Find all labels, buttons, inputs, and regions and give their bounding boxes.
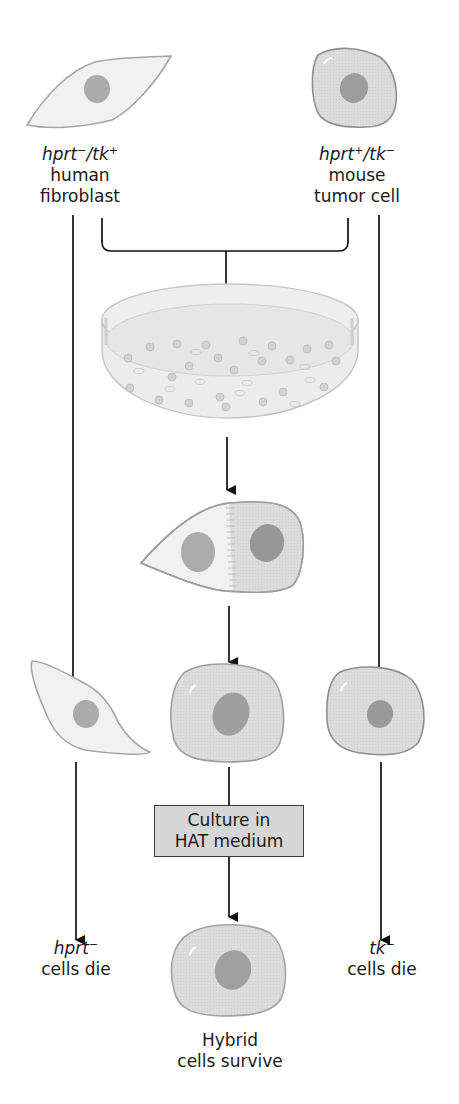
human-nucleus — [181, 532, 215, 572]
nucleus — [84, 75, 110, 103]
hat-selection-diagram: hprt−/tk+ human fibroblast hprt+/tk− mou… — [0, 0, 459, 1104]
hybrid-cells-survive-label: Hybrid cells survive — [150, 1030, 310, 1072]
culture-hat-medium-box: Culture in HAT medium — [154, 805, 304, 857]
hybrid-cell — [171, 664, 284, 762]
mouse-species: mouse — [287, 165, 427, 186]
fused-heterokaryon-cell — [141, 502, 303, 593]
mouse-cell-type: tumor cell — [287, 186, 427, 207]
tk-cells-die-label: tk− cells die — [322, 938, 442, 980]
hprt-cells-die-label: hprt− cells die — [16, 938, 136, 980]
unfused-human-fibroblast — [31, 661, 150, 754]
mouse-tumor-cell — [312, 48, 396, 127]
human-fibroblast-cell — [27, 56, 171, 127]
human-cell-type: fibroblast — [10, 186, 150, 207]
human-fibroblast-label: hprt−/tk+ human fibroblast — [10, 144, 150, 207]
mouse-tumor-label: hprt+/tk− mouse tumor cell — [287, 144, 427, 207]
human-species: human — [10, 165, 150, 186]
nucleus — [73, 700, 99, 728]
human-genotype: hprt−/tk+ — [10, 144, 150, 165]
mouse-genotype: hprt+/tk− — [287, 144, 427, 165]
unfused-mouse-tumor-cell — [327, 667, 424, 755]
surviving-hybrid-cell — [171, 925, 285, 1016]
merge-bracket — [102, 218, 348, 251]
petri-dish — [102, 284, 358, 418]
